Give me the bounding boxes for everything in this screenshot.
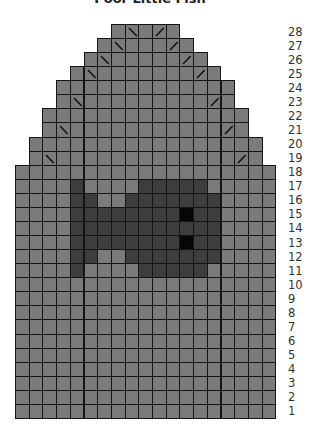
chart-cell — [97, 235, 112, 250]
chart-cell — [111, 207, 126, 222]
chart-cell — [207, 362, 222, 377]
chart-cell — [166, 390, 181, 405]
chart-cell — [138, 207, 153, 222]
chart-cell — [166, 24, 181, 39]
chart-cell — [179, 66, 194, 81]
chart-cell — [56, 376, 71, 391]
chart-cell — [111, 179, 126, 194]
chart-cell — [179, 38, 194, 53]
chart-cell — [111, 390, 126, 405]
chart-cell — [193, 221, 208, 236]
chart-cell — [125, 291, 140, 306]
chart-cell — [97, 207, 112, 222]
chart-cell — [221, 263, 236, 278]
chart-cell — [84, 80, 99, 95]
chart-cell — [262, 249, 277, 264]
chart-cell — [84, 221, 99, 236]
chart-cell — [138, 319, 153, 334]
chart-cell — [84, 94, 99, 109]
chart-cell — [70, 319, 85, 334]
chart-cell — [166, 165, 181, 180]
chart-cell — [42, 390, 57, 405]
chart-cell — [56, 390, 71, 405]
chart-cell — [29, 305, 44, 320]
chart-cell — [262, 291, 277, 306]
chart-cell — [234, 263, 249, 278]
chart-cell — [193, 193, 208, 208]
chart-cell — [262, 221, 277, 236]
chart-cell — [248, 179, 263, 194]
chart-cell — [248, 334, 263, 349]
chart-cell — [97, 94, 112, 109]
chart-cell — [125, 165, 140, 180]
chart-cell — [179, 376, 194, 391]
chart-cell — [193, 362, 208, 377]
chart-cell — [111, 52, 126, 67]
chart-cell — [179, 249, 194, 264]
chart-cell — [56, 151, 71, 166]
chart-cell — [70, 376, 85, 391]
chart-cell — [207, 122, 222, 137]
chart-cell — [207, 348, 222, 363]
chart-cell — [166, 179, 181, 194]
chart-cell — [56, 348, 71, 363]
chart-cell — [42, 348, 57, 363]
chart-cell — [221, 221, 236, 236]
chart-cell — [193, 291, 208, 306]
chart-cell — [179, 277, 194, 292]
chart-cell — [193, 122, 208, 137]
chart-cell — [221, 404, 236, 419]
k2tog-decrease-icon — [179, 52, 194, 67]
chart-cell — [15, 165, 30, 180]
chart-cell — [152, 334, 167, 349]
chart-cell — [125, 122, 140, 137]
chart-cell — [15, 249, 30, 264]
chart-cell — [234, 179, 249, 194]
row-number-label: 25 — [288, 67, 303, 81]
chart-cell — [207, 376, 222, 391]
chart-cell — [84, 263, 99, 278]
chart-cell — [207, 137, 222, 152]
chart-cell — [97, 291, 112, 306]
ssk-decrease-icon — [42, 151, 57, 166]
chart-cell — [125, 348, 140, 363]
chart-cell — [56, 235, 71, 250]
chart-cell — [125, 362, 140, 377]
chart-cell — [152, 38, 167, 53]
chart-cell — [111, 221, 126, 236]
chart-cell — [207, 151, 222, 166]
chart-cell — [193, 249, 208, 264]
chart-cell — [70, 193, 85, 208]
chart-cell — [97, 277, 112, 292]
row-number-label: 14 — [288, 221, 303, 235]
chart-cell — [166, 207, 181, 222]
chart-cell — [179, 221, 194, 236]
chart-cell — [221, 362, 236, 377]
chart-cell — [125, 263, 140, 278]
chart-cell — [56, 277, 71, 292]
chart-cell — [70, 305, 85, 320]
chart-cell — [193, 80, 208, 95]
chart-cell — [84, 376, 99, 391]
chart-cell — [56, 165, 71, 180]
chart-cell — [56, 404, 71, 419]
chart-cell — [221, 207, 236, 222]
chart-cell — [97, 137, 112, 152]
chart-cell — [70, 66, 85, 81]
chart-cell — [166, 151, 181, 166]
chart-cell — [193, 305, 208, 320]
chart-cell — [166, 404, 181, 419]
chart-cell — [138, 66, 153, 81]
chart-cell — [125, 193, 140, 208]
chart-cell — [84, 108, 99, 123]
chart-cell — [84, 207, 99, 222]
chart-cell — [56, 249, 71, 264]
chart-cell — [138, 108, 153, 123]
chart-cell — [193, 137, 208, 152]
chart-cell — [125, 179, 140, 194]
chart-cell — [15, 207, 30, 222]
chart-cell — [29, 277, 44, 292]
chart-cell — [248, 319, 263, 334]
chart-cell — [111, 108, 126, 123]
chart-cell — [138, 249, 153, 264]
